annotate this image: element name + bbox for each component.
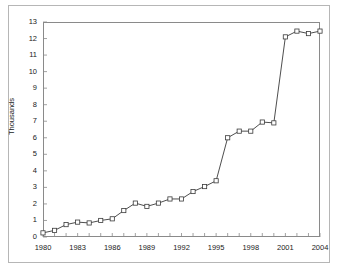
data-point-marker (226, 136, 230, 140)
data-point-marker (295, 29, 299, 33)
y-tick-label: 10 (15, 68, 37, 76)
y-tick-label: 8 (15, 101, 37, 109)
series-markers (41, 29, 322, 235)
data-point-marker (214, 179, 218, 183)
data-point-marker (145, 204, 149, 208)
data-point-marker (133, 201, 137, 205)
y-tick-label: 2 (15, 200, 37, 208)
x-tick-label: 1989 (130, 244, 164, 252)
data-point-marker (76, 220, 80, 224)
data-point-marker (64, 223, 68, 227)
data-point-marker (191, 189, 195, 193)
x-tick-label: 1986 (95, 244, 129, 252)
data-point-marker (318, 29, 322, 33)
data-point-marker (41, 231, 45, 235)
data-point-marker (260, 120, 264, 124)
x-tick-label: 1998 (234, 244, 268, 252)
y-tick-label: 3 (15, 183, 37, 191)
y-tick-label: 12 (15, 35, 37, 43)
y-tick-label: 5 (15, 150, 37, 158)
data-point-marker (87, 221, 91, 225)
data-point-marker (168, 197, 172, 201)
x-tick-label: 2001 (268, 244, 302, 252)
data-point-marker (110, 217, 114, 221)
y-tick-label: 6 (15, 134, 37, 142)
y-tick-label: 0 (15, 233, 37, 241)
chart-figure: Thousands 131211109876543210 19801983198… (0, 0, 338, 275)
y-tick-label: 7 (15, 117, 37, 125)
data-point-marker (179, 197, 183, 201)
y-tick-label: 13 (15, 18, 37, 26)
data-point-marker (272, 121, 276, 125)
data-point-marker (99, 218, 103, 222)
data-point-marker (156, 201, 160, 205)
data-point-marker (249, 129, 253, 133)
y-axis-ticks (43, 22, 47, 237)
data-point-marker (237, 129, 241, 133)
x-tick-label: 1983 (61, 244, 95, 252)
data-point-marker (283, 35, 287, 39)
data-point-marker (52, 228, 56, 232)
x-tick-label: 1992 (165, 244, 199, 252)
x-tick-label: 1995 (199, 244, 233, 252)
y-tick-label: 1 (15, 216, 37, 224)
y-tick-label: 11 (15, 51, 37, 59)
x-tick-label: 1980 (26, 244, 60, 252)
series-line (43, 31, 320, 233)
data-point-marker (306, 31, 310, 35)
chart-canvas (0, 0, 338, 275)
data-point-marker (122, 208, 126, 212)
y-tick-label: 4 (15, 167, 37, 175)
y-tick-label: 9 (15, 84, 37, 92)
data-point-marker (202, 184, 206, 188)
x-tick-label: 2004 (303, 244, 337, 252)
x-axis-ticks (43, 233, 320, 237)
